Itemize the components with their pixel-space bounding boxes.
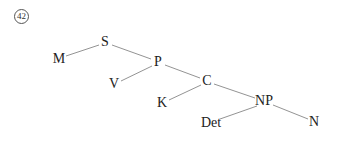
node-k: K: [157, 96, 167, 110]
node-m: M: [53, 52, 65, 66]
node-n: N: [309, 115, 319, 129]
edge-c-np: [214, 84, 255, 98]
node-det: Det: [201, 116, 221, 130]
edge-p-c: [165, 65, 200, 78]
node-c: C: [202, 74, 211, 88]
edge-np-det: [220, 106, 257, 119]
node-v: V: [109, 77, 119, 91]
edge-c-k: [169, 85, 201, 100]
edge-s-p: [112, 45, 151, 59]
node-s: S: [101, 35, 109, 49]
node-p: P: [154, 55, 162, 69]
edge-s-m: [66, 45, 99, 56]
tree-edges: [0, 0, 338, 143]
edge-np-n: [273, 105, 308, 119]
edge-p-v: [121, 66, 152, 81]
node-np: NP: [255, 94, 273, 108]
